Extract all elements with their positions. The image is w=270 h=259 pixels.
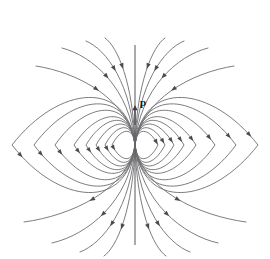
field-line-canvas: p bbox=[0, 0, 270, 259]
dipole-field-figure: p bbox=[0, 0, 270, 259]
dipole-moment-label: p bbox=[140, 96, 146, 108]
